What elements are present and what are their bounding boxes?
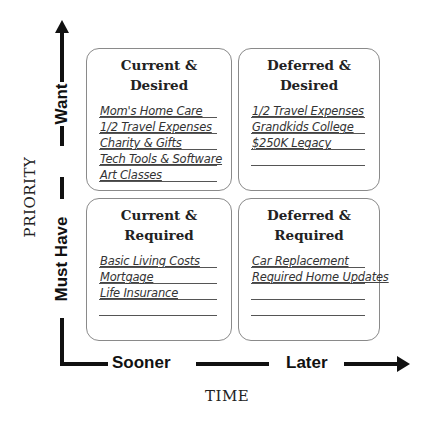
list-item: Life Insurance [99, 284, 217, 300]
quadrant-current-required: Current & Required Basic Living Costs Mo… [86, 198, 232, 341]
item-text: Mom's Home Care [100, 104, 202, 118]
quadrant-deferred-required: Deferred & Required Car Replacement Requ… [238, 198, 380, 341]
item-list: 1/2 Travel Expenses Grandkids College $2… [251, 102, 365, 166]
x-axis-high-label: Later [286, 353, 328, 373]
item-text: Tech Tools & Software [100, 152, 222, 166]
list-item: Car Replacement [251, 252, 365, 268]
list-item: Tech Tools & Software [99, 150, 217, 166]
quadrant-title: Deferred & Desired [239, 55, 379, 95]
y-axis-line-mid-2 [60, 177, 64, 199]
item-text: Mortgage [100, 270, 153, 284]
item-list: Mom's Home Care 1/2 Travel Expenses Char… [99, 102, 217, 182]
item-text: Art Classes [100, 168, 162, 182]
x-axis-low-label: Sooner [112, 353, 171, 373]
y-axis-title: PRIORITY [20, 152, 40, 242]
item-text: Required Home Updates [252, 270, 389, 284]
quadrant-title-line1: Deferred & [239, 205, 379, 225]
x-axis-line-right [344, 362, 400, 366]
list-item [251, 300, 365, 316]
quadrant-title-line2: Required [239, 225, 379, 245]
x-axis-line-mid [196, 362, 269, 366]
list-item: $250K Legacy [251, 134, 365, 150]
list-item [99, 300, 217, 316]
item-text: Life Insurance [100, 286, 178, 300]
list-item: Mortgage [99, 268, 217, 284]
list-item: Mom's Home Care [99, 102, 217, 118]
y-axis-low-label: Must Have [51, 209, 73, 309]
list-item: Charity & Gifts [99, 134, 217, 150]
quadrant-title-line1: Deferred & [239, 55, 379, 75]
quadrant-title-line2: Desired [239, 75, 379, 95]
quadrant-title-line2: Required [87, 225, 231, 245]
item-text: Basic Living Costs [100, 254, 200, 268]
item-text: $250K Legacy [252, 136, 331, 150]
x-axis-title: TIME [205, 387, 249, 405]
item-list: Basic Living Costs Mortgage Life Insuran… [99, 252, 217, 316]
list-item [251, 284, 365, 300]
item-text: Charity & Gifts [100, 136, 182, 150]
list-item: Required Home Updates [251, 268, 365, 284]
list-item: 1/2 Travel Expenses [99, 118, 217, 134]
quadrant-title: Current & Required [87, 205, 231, 245]
item-text: Grandkids College [252, 120, 354, 134]
quadrant-deferred-desired: Deferred & Desired 1/2 Travel Expenses G… [238, 48, 380, 191]
x-axis-arrowhead [397, 356, 410, 372]
item-text: 1/2 Travel Expenses [252, 104, 364, 118]
item-text: 1/2 Travel Expenses [100, 120, 212, 134]
quadrant-title-line2: Desired [87, 75, 231, 95]
list-item: Art Classes [99, 166, 217, 182]
list-item: Grandkids College [251, 118, 365, 134]
item-list: Car Replacement Required Home Updates [251, 252, 365, 316]
list-item: Basic Living Costs [99, 252, 217, 268]
quadrant-title: Deferred & Required [239, 205, 379, 245]
y-axis-line-bottom [60, 318, 64, 366]
y-axis-high-label: Want [51, 74, 73, 134]
item-text: Car Replacement [252, 254, 349, 268]
x-axis-line-left [60, 362, 108, 366]
list-item [251, 150, 365, 166]
list-item: 1/2 Travel Expenses [251, 102, 365, 118]
quadrant-title-line1: Current & [87, 205, 231, 225]
quadrant-title-line1: Current & [87, 55, 231, 75]
quadrant-title: Current & Desired [87, 55, 231, 95]
quadrant-current-desired: Current & Desired Mom's Home Care 1/2 Tr… [86, 48, 232, 191]
